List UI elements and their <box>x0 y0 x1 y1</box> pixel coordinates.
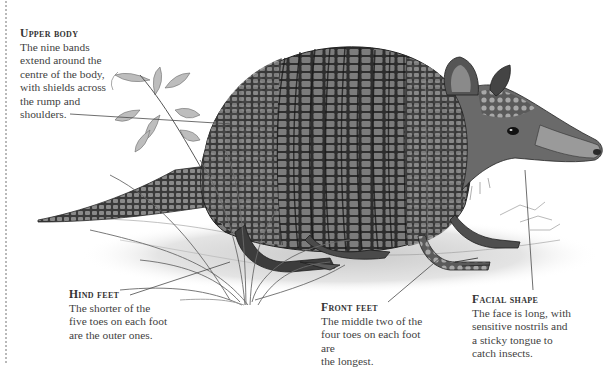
caption-front-feet: Front feet The middle two of the four to… <box>321 301 431 369</box>
caption-body-facial-shape: The face is long, with sensitive nostril… <box>472 307 582 361</box>
caption-upper-body: Upper body The nine bands extend around … <box>20 27 120 122</box>
caption-body-hind-feet: The shorter of the five toes on each foo… <box>69 302 169 343</box>
caption-heading-hind-feet: Hind feet <box>69 288 169 302</box>
caption-body-front-feet: The middle two of the four toes on each … <box>321 315 431 369</box>
caption-heading-facial-shape: Facial shape <box>472 293 582 307</box>
caption-heading-upper-body: Upper body <box>20 27 120 41</box>
armadillo-head <box>444 57 602 202</box>
caption-body-upper-body: The nine bands extend around the centre … <box>20 41 120 122</box>
caption-hind-feet: Hind feet The shorter of the five toes o… <box>69 288 169 342</box>
twigs <box>500 202 560 230</box>
armadillo-tail <box>38 165 220 222</box>
caption-facial-shape: Facial shape The face is long, with sens… <box>472 293 582 361</box>
caption-heading-front-feet: Front feet <box>321 301 431 315</box>
